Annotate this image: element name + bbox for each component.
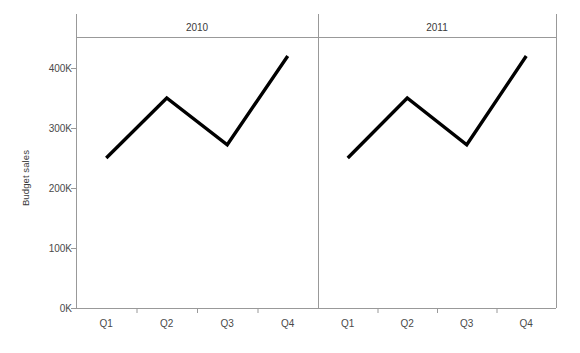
series-line: [348, 56, 527, 158]
series-line: [106, 56, 288, 158]
chart-container: Budget sales 0K100K200K300K400K Q1Q2Q3Q4…: [0, 0, 580, 353]
plot-area: [0, 0, 580, 353]
